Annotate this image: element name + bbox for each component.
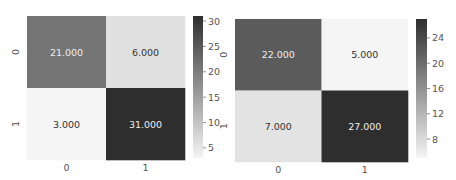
x-tick-label: 1 [362, 164, 368, 175]
colorbar-tick-label: 20 [208, 66, 220, 77]
cell-value-label: 6.000 [132, 47, 159, 58]
colorbar-tick-label: 8 [432, 134, 438, 145]
cell-value-label: 3.000 [53, 119, 80, 130]
figure: 21.0006.0003.00031.000010151015202530 22… [0, 0, 456, 180]
colorbar-tick-label: 5 [208, 142, 214, 153]
cell-value-label: 31.000 [129, 119, 162, 130]
colorbar [416, 19, 427, 158]
x-tick-label: 0 [63, 162, 69, 173]
confusion-matrix-heatmap-right: 22.0005.0007.00027.0000101812162024 [218, 19, 444, 175]
colorbar-tick-label: 25 [208, 41, 220, 52]
colorbar-tick-label: 16 [432, 83, 444, 94]
x-tick-label: 1 [142, 162, 148, 173]
cell-value-label: 7.000 [265, 121, 292, 132]
colorbar-tick-label: 15 [208, 92, 220, 103]
cell-value-label: 5.000 [351, 49, 378, 60]
cell-value-label: 27.000 [348, 121, 381, 132]
y-tick-label: 1 [10, 121, 21, 127]
colorbar-tick-label: 20 [432, 58, 444, 69]
colorbar-tick-label: 30 [208, 16, 220, 27]
colorbar-tick-label: 24 [432, 32, 444, 43]
y-tick-label: 1 [218, 123, 229, 129]
cell-value-label: 21.000 [50, 47, 83, 58]
y-tick-label: 0 [10, 49, 21, 55]
colorbar [193, 16, 203, 158]
cell-value-label: 22.000 [262, 49, 295, 60]
y-tick-label: 0 [218, 52, 229, 58]
colorbar-tick-label: 12 [432, 108, 444, 119]
confusion-matrix-heatmap-left: 21.0006.0003.00031.000010151015202530 [10, 16, 220, 173]
x-tick-label: 0 [275, 164, 281, 175]
